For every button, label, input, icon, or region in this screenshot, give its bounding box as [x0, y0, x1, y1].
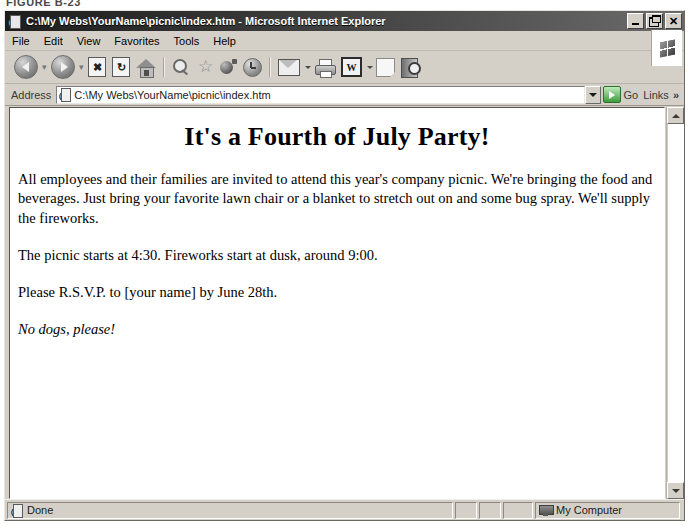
page-paragraph-4: No dogs, please! — [18, 320, 656, 339]
mail-envelope-icon — [278, 59, 300, 76]
status-panel-2 — [479, 502, 501, 519]
arrow-right-circle-icon — [51, 55, 75, 79]
window-title: C:\My Webs\YourName\picnic\index.htm - M… — [26, 15, 627, 27]
page-title: It's a Fourth of July Party! — [18, 122, 656, 152]
book-magnifier-icon — [401, 58, 421, 76]
blank-page-icon — [376, 58, 395, 77]
menu-item-view[interactable]: View — [70, 33, 108, 49]
security-zone-label: My Computer — [556, 504, 622, 516]
search-icon — [172, 58, 190, 76]
toolbar: ▾ ▾ ✖ ↻ ☆ — [5, 51, 684, 84]
home-button[interactable] — [133, 53, 159, 81]
scroll-down-icon[interactable] — [667, 482, 684, 499]
window-controls: ✕ — [627, 13, 682, 29]
history-button[interactable] — [240, 53, 265, 81]
refresh-icon: ↻ — [112, 57, 130, 77]
content-region: It's a Fourth of July Party! All employe… — [5, 106, 684, 499]
links-button[interactable]: Links » — [643, 89, 682, 101]
back-button[interactable] — [11, 53, 41, 81]
stop-button[interactable]: ✖ — [85, 53, 109, 81]
page-paragraph-3: Please R.S.V.P. to [your name] by June 2… — [18, 283, 656, 302]
word-w-icon: W — [341, 57, 362, 77]
media-button[interactable] — [217, 53, 240, 81]
status-panel-1 — [455, 502, 477, 519]
restore-button[interactable] — [646, 13, 663, 29]
media-icon — [220, 59, 237, 75]
go-arrow-icon — [603, 86, 621, 103]
page-paragraph-1: All employees and their families are inv… — [18, 170, 656, 228]
status-panel-3 — [503, 502, 533, 519]
address-input[interactable]: C:\My Webs\YourName\picnic\index.htm — [56, 86, 584, 104]
forward-dropdown-icon[interactable]: ▾ — [78, 62, 85, 72]
star-icon: ☆ — [196, 59, 214, 76]
page-globe-icon — [59, 88, 71, 101]
discuss-button[interactable] — [373, 53, 398, 81]
chevron-down-icon[interactable] — [585, 86, 601, 104]
forward-button[interactable] — [48, 53, 78, 81]
stop-x-icon: ✖ — [88, 57, 106, 77]
history-clock-icon — [243, 58, 262, 77]
status-bar: Done My Computer — [5, 499, 684, 520]
address-bar: Address C:\My Webs\YourName\picnic\index… — [5, 84, 684, 106]
edit-word-button[interactable]: W — [338, 53, 365, 81]
title-bar[interactable]: C:\My Webs\YourName\picnic\index.htm - M… — [5, 11, 684, 31]
browser-window: C:\My Webs\YourName\picnic\index.htm - M… — [4, 10, 685, 521]
scrollbar-track[interactable] — [667, 124, 684, 482]
toolbar-separator — [269, 57, 271, 77]
my-computer-icon — [539, 504, 552, 517]
menu-item-tools[interactable]: Tools — [167, 33, 207, 49]
mail-button[interactable] — [275, 53, 303, 81]
search-button[interactable] — [169, 53, 193, 81]
research-button[interactable] — [398, 53, 424, 81]
page-globe-icon — [8, 14, 22, 28]
menu-item-favorites[interactable]: Favorites — [107, 33, 166, 49]
vertical-scrollbar[interactable] — [666, 107, 684, 499]
page-document: It's a Fourth of July Party! All employe… — [9, 107, 665, 499]
menu-item-help[interactable]: Help — [206, 33, 243, 49]
links-label: Links — [643, 89, 669, 101]
scroll-up-icon[interactable] — [667, 107, 684, 124]
menu-item-file[interactable]: File — [5, 33, 37, 49]
close-button[interactable]: ✕ — [665, 13, 682, 29]
favorites-button[interactable]: ☆ — [193, 53, 217, 81]
go-label: Go — [624, 89, 639, 101]
home-icon — [136, 59, 156, 76]
minimize-button[interactable] — [627, 13, 644, 29]
status-message-panel: Done — [7, 502, 453, 519]
arrow-left-circle-icon — [14, 55, 38, 79]
address-label: Address — [11, 89, 51, 101]
security-zone-panel: My Computer — [535, 502, 680, 519]
refresh-button[interactable]: ↻ — [109, 53, 133, 81]
menu-bar: File Edit View Favorites Tools Help — [5, 31, 684, 51]
address-value: C:\My Webs\YourName\picnic\index.htm — [74, 89, 583, 101]
toolbar-separator — [163, 57, 165, 77]
page-paragraph-2: The picnic starts at 4:30. Fireworks sta… — [18, 246, 656, 265]
windows-flag-logo — [651, 30, 682, 66]
status-message: Done — [27, 504, 53, 516]
go-button[interactable]: Go — [601, 86, 644, 103]
chevron-double-right-icon[interactable]: » — [673, 89, 679, 101]
page-globe-icon — [11, 504, 23, 517]
printer-icon — [314, 59, 335, 76]
menu-item-edit[interactable]: Edit — [37, 33, 70, 49]
figure-caption: FIGURE B-23 — [6, 0, 81, 8]
back-dropdown-icon[interactable]: ▾ — [41, 62, 48, 72]
print-button[interactable] — [311, 53, 338, 81]
